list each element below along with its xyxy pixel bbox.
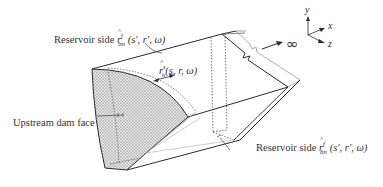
symbol: r xyxy=(117,35,121,46)
coordinate-axes xyxy=(306,16,325,43)
axis-x-label: x xyxy=(328,20,332,31)
symbol: r xyxy=(319,143,323,154)
label-text: Reservoir side xyxy=(54,34,114,45)
axis-y-label: y xyxy=(305,4,309,15)
label-text: Reservoir side xyxy=(256,142,316,153)
symbol: r xyxy=(159,66,163,77)
superscript: f xyxy=(121,32,123,40)
args: (s, r, ω) xyxy=(165,65,197,76)
reservoir-side-top-label: Reservoir side rfbn (s′, r′, ω) xyxy=(54,33,165,48)
leader-bottom xyxy=(220,138,230,150)
infinity-symbol: ∞ xyxy=(286,35,299,53)
superscript: f xyxy=(323,140,325,148)
axis-z-label: z xyxy=(328,38,332,49)
args: (s′, r′, ω) xyxy=(330,142,368,153)
args: (s′, r′, ω) xyxy=(128,34,166,45)
upstream-dam-face-shape xyxy=(92,69,188,170)
dam-traction-label: rsn(s, r, ω) xyxy=(159,64,197,79)
upstream-dam-face-label: Upstream dam face xyxy=(13,118,95,129)
reservoir-side-bottom-label: Reservoir side rfbn (s′, r′, ω) xyxy=(256,141,367,156)
reservoir-dam-diagram xyxy=(0,0,383,187)
